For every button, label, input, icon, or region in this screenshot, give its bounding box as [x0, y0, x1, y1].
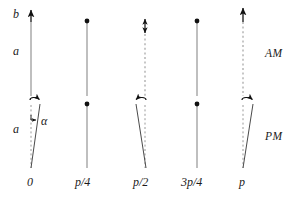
am-item-phase-3p4 [195, 19, 200, 96]
row-label-am: AM [265, 48, 283, 60]
am-item-phase-p4 [85, 19, 90, 96]
axis-tick-0: 0 [27, 176, 33, 188]
pm-item-phase-p [242, 97, 253, 168]
pm-item-phase-0 [30, 97, 40, 168]
axis-tick-3p4: 3p/4 [181, 176, 202, 188]
pm-item-phase-p2 [136, 97, 146, 168]
pm-item-phase-p4 [85, 102, 90, 168]
axis-tick-p2: p/2 [133, 176, 148, 188]
figure-canvas [0, 0, 300, 197]
label-b: b [13, 8, 19, 20]
axis-tick-p: p [239, 176, 245, 188]
modulation-phasor-figure: b a a α AM PM 0 p/4 p/2 3p/4 p [0, 0, 300, 197]
pm-item-phase-3p4 [195, 102, 200, 168]
label-a-pm: a [13, 123, 19, 135]
row-label-pm: PM [265, 131, 283, 143]
axis-tick-p4: p/4 [75, 176, 90, 188]
label-a-am: a [13, 45, 19, 57]
label-alpha: α [41, 115, 47, 127]
